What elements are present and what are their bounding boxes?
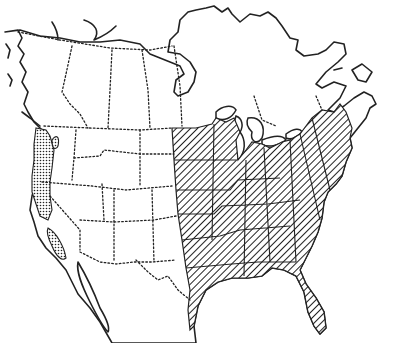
northern-water [52,20,116,40]
range-map [0,0,396,343]
atlantic-islands [334,64,372,82]
